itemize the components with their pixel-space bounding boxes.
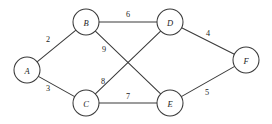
node-a: A [14, 57, 40, 83]
node-label-d: D [166, 18, 174, 28]
node-c: C [73, 90, 99, 116]
node-label-a: A [23, 66, 30, 76]
edge-weight-a-b: 2 [46, 35, 50, 44]
edge-weight-b-e: 9 [102, 45, 106, 54]
edge-weight-e-f: 5 [205, 88, 209, 97]
node-label-e: E [166, 99, 173, 109]
edge-weight-d-f: 4 [206, 29, 210, 38]
edge-weight-c-d: 8 [101, 77, 105, 86]
edge-weights-layer: 23698745 [46, 10, 210, 101]
edge-a-b [37, 30, 76, 62]
edge-weight-c-e: 7 [126, 92, 130, 101]
nodes-layer: ABCDEF [14, 9, 259, 116]
node-e: E [157, 90, 183, 116]
edge-weight-a-c: 3 [46, 84, 50, 93]
edge-a-c [38, 76, 74, 96]
graph-canvas: ABCDEF 23698745 [0, 0, 272, 124]
node-b: B [73, 9, 99, 35]
edge-weight-b-d: 6 [126, 10, 130, 19]
node-label-f: F [242, 56, 249, 66]
node-f: F [233, 47, 259, 73]
node-label-b: B [83, 18, 88, 28]
node-label-c: C [83, 99, 89, 109]
node-d: D [157, 9, 183, 35]
graph-figure: ABCDEF 23698745 [0, 0, 272, 124]
